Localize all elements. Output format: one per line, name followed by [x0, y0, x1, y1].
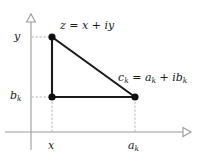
axis-tick-bk-base: b	[10, 89, 17, 102]
label-ck-b-sub: k	[183, 76, 188, 85]
axis-tick-x: x	[48, 140, 54, 151]
label-ck-b: b	[176, 71, 183, 84]
label-z: z = x + iy	[60, 20, 114, 31]
label-z-rhs: x + iy	[82, 19, 114, 32]
label-ck-plus: + i	[156, 71, 176, 84]
label-ck-eq: =	[129, 71, 145, 84]
label-ck: ck = ak + ibk	[118, 72, 187, 85]
vertex-ck	[131, 93, 138, 100]
axis-tick-bk-sub: k	[17, 94, 22, 103]
label-z-eq: =	[66, 19, 82, 32]
axis-tick-ak: ak	[128, 140, 139, 153]
axis-tick-bk: bk	[10, 90, 22, 103]
complex-plane-figure: z = x + iy ck = ak + ibk y bk x ak	[0, 0, 199, 165]
axis-tick-ak-sub: k	[135, 144, 140, 153]
triangle	[52, 37, 135, 97]
vertex-z	[48, 33, 55, 40]
vertex-foot	[48, 93, 55, 100]
y-axis	[27, 14, 36, 150]
x-axis	[5, 128, 191, 137]
axis-tick-y: y	[14, 31, 20, 42]
triangle-side-hypotenuse	[52, 37, 135, 97]
